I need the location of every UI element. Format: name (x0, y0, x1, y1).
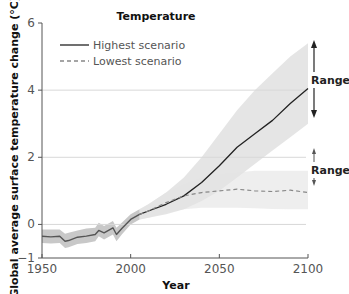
arrow-down-icon (311, 110, 317, 118)
range-annotation-high: Range (309, 40, 349, 118)
uncertainty-bands (42, 43, 308, 248)
y-axis-label: Global average surface temperature chang… (8, 0, 21, 294)
arrow-down-icon (312, 180, 316, 186)
y-tick-label: 2 (27, 150, 35, 164)
legend: Highest scenario Lowest scenario (60, 39, 185, 68)
y-tick-label: 6 (27, 16, 35, 30)
x-tick-label: 2100 (293, 262, 324, 276)
x-tick-label: 1950 (27, 262, 58, 276)
range-label-high: Range (311, 74, 349, 87)
legend-highest: Highest scenario (93, 39, 185, 52)
band-historical (42, 209, 140, 248)
legend-lowest: Lowest scenario (93, 55, 182, 68)
x-tick-label: 2050 (204, 262, 235, 276)
y-tick-label: 0 (27, 217, 35, 231)
x-axis-label: Year (161, 279, 190, 292)
y-tick-label: 4 (27, 83, 35, 97)
arrow-up-icon (312, 148, 316, 154)
arrow-up-icon (311, 40, 317, 48)
x-tick-label: 2000 (115, 262, 146, 276)
chart-title: Temperature (116, 10, 195, 23)
range-label-low: Range (311, 164, 349, 177)
range-annotation-low: Range (309, 148, 349, 186)
temperature-chart: −102461950200020502100 Temperature Globa… (0, 0, 349, 294)
